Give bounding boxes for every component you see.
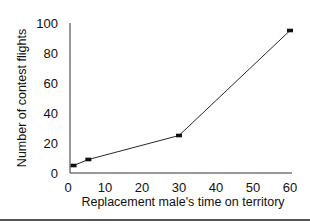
line-chart: 020406080100 Number of contest flights 0…	[0, 0, 310, 224]
x-tick-label: 60	[283, 180, 297, 195]
y-tick-label: 20	[44, 136, 58, 151]
y-tick-label: 60	[44, 76, 58, 91]
x-tick-label: 50	[246, 180, 260, 195]
x-tick-label: 30	[172, 180, 186, 195]
y-tick-label: 80	[44, 46, 58, 61]
data-point-marker	[287, 29, 293, 33]
y-tick-label: 100	[36, 16, 58, 31]
y-tick-label: 40	[44, 106, 58, 121]
bottom-divider	[0, 219, 310, 221]
x-tick-label: 20	[135, 180, 149, 195]
x-axis-label: Replacement male's time on territory	[81, 195, 285, 209]
data-line	[74, 31, 290, 166]
x-axis: 0102030405060 Replacement male's time on…	[64, 173, 297, 209]
x-tick-label: 10	[98, 180, 112, 195]
y-tick-label: 0	[51, 166, 58, 181]
y-axis-label: Number of contest flights	[15, 29, 29, 167]
data-point-marker	[176, 134, 182, 138]
x-tick-label: 0	[64, 180, 71, 195]
data-point-marker	[85, 158, 91, 162]
plot-area	[71, 29, 293, 168]
x-tick-label: 40	[209, 180, 223, 195]
y-axis: 020406080100 Number of contest flights	[15, 16, 70, 181]
data-point-marker	[71, 164, 77, 168]
